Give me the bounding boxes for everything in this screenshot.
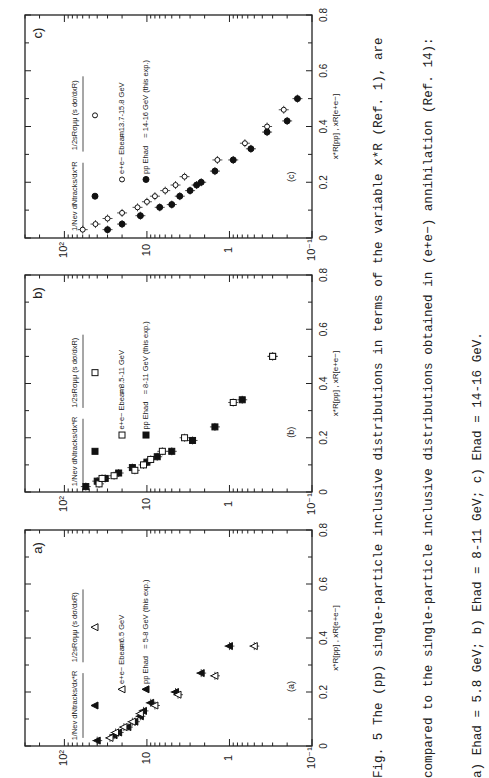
y-tick-label: 10⁻¹: [305, 493, 317, 515]
x-tick-label: 0: [318, 743, 329, 749]
panel-a: 00.20.40.60.8x*R[pp] , xR[e+e−]10⁻¹11010…: [25, 523, 340, 769]
y-tick-label: 1: [222, 501, 234, 507]
legend-formula-left: 1/Nev dNtracks/dx*R: [70, 161, 79, 231]
x-tick-label: 0.6: [318, 63, 329, 77]
panel-tag: (b): [286, 427, 296, 438]
caption-line-1: Fig. 5 The (pp) single-particle inclusiv…: [371, 0, 388, 778]
plot-frame: [25, 275, 312, 492]
y-tick-label: 10²: [57, 242, 69, 258]
x-tick-label: 0: [318, 489, 329, 495]
x-tick-label: 0.2: [318, 685, 329, 699]
plot-frame: [25, 530, 312, 746]
x-tick-label: 0.4: [318, 119, 329, 133]
panel-letter: b): [30, 287, 45, 299]
x-tick-label: 0: [318, 235, 329, 241]
legend-formula-left: 1/Nev dNtracks/dx*R: [70, 670, 79, 740]
data-series: [103, 95, 303, 234]
x-tick-label: 0.2: [318, 430, 329, 444]
legend-value: = 8.5-11 GeV: [117, 350, 126, 394]
y-tick-label: 1: [222, 247, 234, 253]
panel-b: 00.20.40.60.8x*R[pp] , xR[e+e−]10⁻¹11010…: [25, 268, 340, 515]
y-tick-label: 10: [140, 244, 152, 256]
legend-label: pp Ehad: [141, 146, 150, 174]
y-tick-label: 10: [140, 498, 152, 510]
data-series: [105, 642, 259, 742]
panel-c: 00.20.40.60.8x*R[pp] , xR[e+e−]10⁻¹11010…: [25, 8, 340, 261]
x-tick-label: 0.4: [318, 376, 329, 390]
legend-formula-left: 1/Nev dNtracks/dx*R: [70, 416, 79, 486]
legend-value: = 6.5 GeV: [117, 615, 126, 649]
data-series: [92, 642, 234, 745]
caption-line-2: compared to the single-particle inclusiv…: [421, 0, 438, 778]
legend-value: = 5-8 GeV (this exp.): [141, 579, 150, 649]
y-tick-label: 10⁻¹: [305, 747, 317, 769]
legend-formula-right: 1/2sRσμμ (s dσ/dxR): [70, 337, 79, 408]
legend-formula-right: 1/2sRσμμ (s dσ/dxR): [70, 80, 79, 151]
panel-letter: a): [30, 542, 45, 554]
panel-letter: c): [30, 28, 45, 39]
y-tick-label: 10: [140, 752, 152, 764]
x-tick-label: 0.8: [318, 268, 329, 282]
x-tick-label: 0.8: [318, 523, 329, 537]
legend-value: = 8-11 GeV (this exp.): [141, 321, 150, 395]
caption-line-3: a) Ehad = 5.8 GeV; b) Ehad = 8-11 GeV; c…: [470, 0, 487, 778]
x-tick-label: 0.2: [318, 175, 329, 189]
y-tick-label: 10²: [57, 750, 69, 766]
panel-tag: (c): [286, 171, 296, 182]
y-tick-label: 1: [222, 755, 234, 761]
x-tick-label: 0.4: [318, 631, 329, 645]
panel-tag: (a): [286, 681, 296, 692]
data-series: [81, 352, 278, 490]
legend-value: = 14-16 GeV (this exp.): [141, 59, 150, 137]
x-tick-label: 0.6: [318, 322, 329, 336]
legend-formula-right: 1/2sRσμμ (s dσ/dxR): [70, 592, 79, 663]
y-tick-label: 10²: [57, 496, 69, 512]
legend-value: = 13.7-15.8 GeV: [117, 82, 126, 137]
figure-caption: Fig. 5 The (pp) single-particle inclusiv…: [338, 0, 424, 778]
x-tick-label: 0.6: [318, 577, 329, 591]
y-tick-label: 10⁻¹: [305, 239, 317, 261]
data-series: [78, 106, 289, 234]
legend-label: pp Ehad: [141, 656, 150, 684]
legend-label: pp Ehad: [141, 402, 150, 430]
x-tick-label: 0.8: [318, 8, 329, 22]
